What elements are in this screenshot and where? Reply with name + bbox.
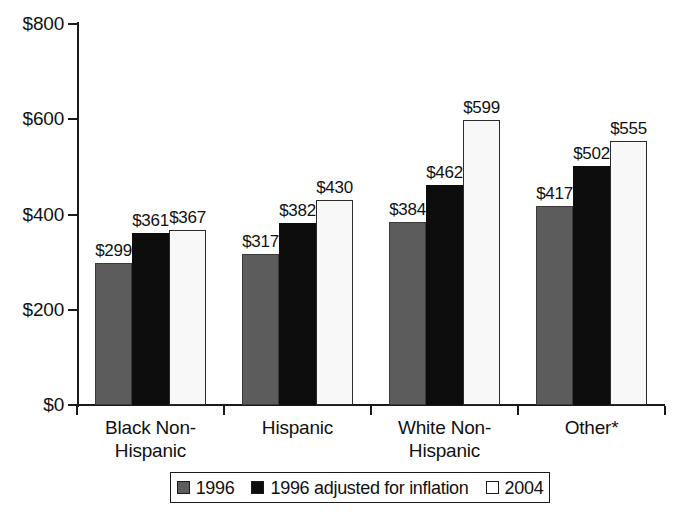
plot-area: $299$361$367$317$382$430$384$462$599$417… xyxy=(77,24,665,405)
category-label-line: Other* xyxy=(518,416,665,439)
x-axis-tick xyxy=(76,406,78,415)
x-axis-category-label: Black Non-Hispanic xyxy=(77,416,224,462)
bar[interactable] xyxy=(316,200,353,405)
legend-entry[interactable]: 1996 adjusted for inflation xyxy=(251,479,468,497)
category-label-line: Hispanic xyxy=(371,439,518,462)
legend-entry[interactable]: 1996 xyxy=(177,479,235,497)
category-label-line: Black Non- xyxy=(77,416,224,439)
x-axis-tick xyxy=(517,406,519,415)
bar-value-label: $367 xyxy=(160,209,215,226)
x-axis-category-label: Hispanic xyxy=(224,416,371,439)
x-axis-category-label: White Non-Hispanic xyxy=(371,416,518,462)
bar[interactable] xyxy=(536,206,573,405)
bar[interactable] xyxy=(573,166,610,405)
legend-swatch-icon xyxy=(177,481,190,494)
legend-entry[interactable]: 2004 xyxy=(486,479,544,497)
chart-legend: 19961996 adjusted for inflation2004 xyxy=(170,472,550,503)
category-label-line: Hispanic xyxy=(224,416,371,439)
bar[interactable] xyxy=(279,223,316,405)
legend-swatch-icon xyxy=(486,481,499,494)
x-axis-tick xyxy=(664,406,666,415)
bar[interactable] xyxy=(242,254,279,405)
bar[interactable] xyxy=(132,233,169,405)
x-axis-category-label: Other* xyxy=(518,416,665,439)
y-axis-tick-label: $400 xyxy=(0,205,64,224)
bar[interactable] xyxy=(610,141,647,405)
y-axis-tick-label: $0 xyxy=(0,395,64,414)
legend-label: 2004 xyxy=(505,479,544,497)
x-axis-tick xyxy=(223,406,225,415)
bar-value-label: $430 xyxy=(307,179,362,196)
bar[interactable] xyxy=(95,263,132,405)
bar-chart: $0$200$400$600$800 $299$361$367$317$382$… xyxy=(0,0,676,514)
bar-value-label: $599 xyxy=(454,99,509,116)
y-axis-tick-label: $800 xyxy=(0,14,64,33)
bar-value-label: $555 xyxy=(601,120,656,137)
category-label-line: White Non- xyxy=(371,416,518,439)
bar[interactable] xyxy=(426,185,463,405)
legend-label: 1996 adjusted for inflation xyxy=(270,479,468,497)
legend-label: 1996 xyxy=(196,479,235,497)
bar[interactable] xyxy=(169,230,206,405)
category-label-line: Hispanic xyxy=(77,439,224,462)
bar[interactable] xyxy=(463,120,500,405)
y-axis-tick-label: $200 xyxy=(0,300,64,319)
x-axis-tick xyxy=(370,406,372,415)
y-axis-tick-label: $600 xyxy=(0,109,64,128)
bar[interactable] xyxy=(389,222,426,405)
legend-swatch-icon xyxy=(251,481,264,494)
